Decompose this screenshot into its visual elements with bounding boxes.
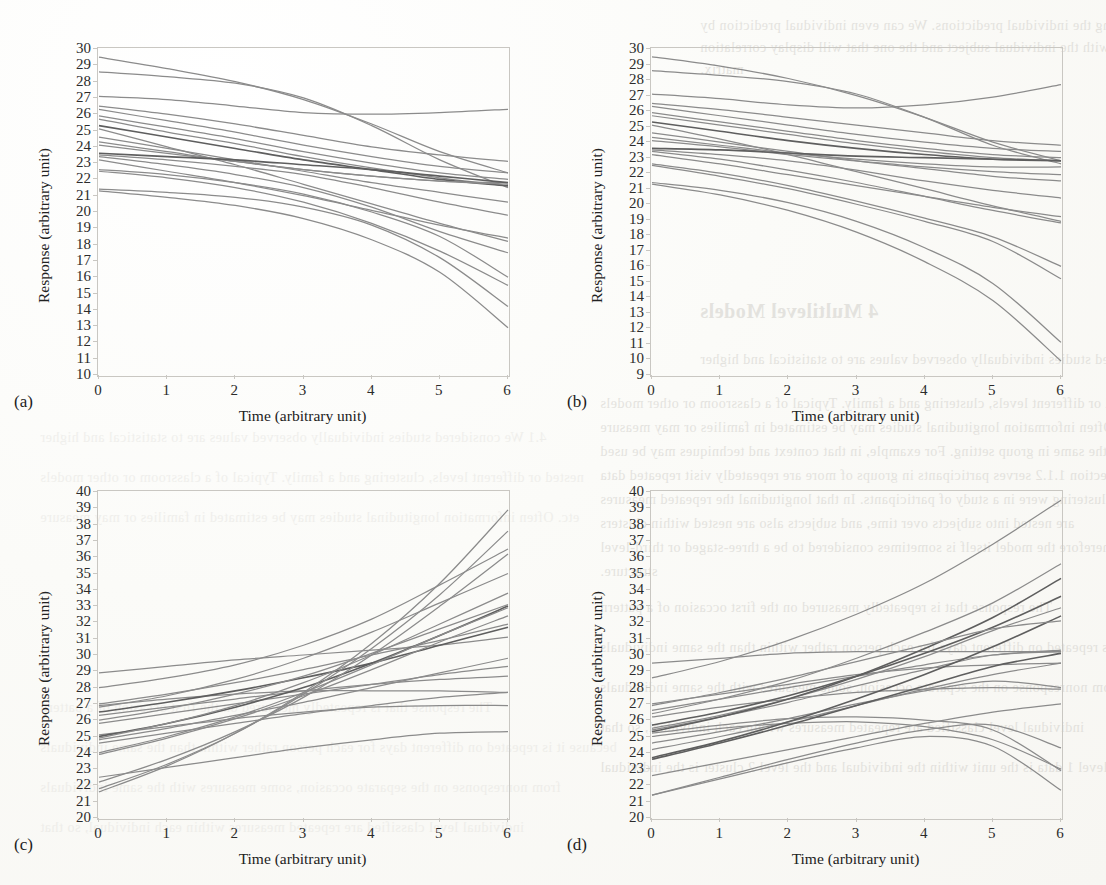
y-axis-tick-label: 23 bbox=[608, 761, 644, 776]
y-axis-tick-mark bbox=[646, 801, 650, 802]
x-axis-tick-label: 5 bbox=[988, 826, 996, 841]
y-axis-tick-label: 36 bbox=[608, 549, 644, 564]
x-axis-tick-mark bbox=[787, 818, 788, 822]
y-axis-tick-mark bbox=[646, 524, 650, 525]
y-axis-tick-label: 30 bbox=[608, 647, 644, 662]
y-axis-tick-label: 24 bbox=[608, 744, 644, 759]
y-axis-tick-mark bbox=[646, 589, 650, 590]
y-axis-tick-mark bbox=[646, 817, 650, 818]
panel-label-d: (d) bbox=[567, 835, 587, 855]
y-axis-tick-label: 21 bbox=[608, 793, 644, 808]
y-axis-tick-mark bbox=[646, 768, 650, 769]
plot-area-d bbox=[650, 490, 1063, 820]
traces-d bbox=[651, 491, 1062, 819]
trace-line bbox=[652, 704, 1061, 776]
y-axis-tick-label: 32 bbox=[608, 614, 644, 629]
x-axis-tick-label: 6 bbox=[1056, 826, 1064, 841]
trace-line bbox=[652, 564, 1061, 714]
y-axis-tick-mark bbox=[646, 719, 650, 720]
y-axis-tick-mark bbox=[646, 491, 650, 492]
x-axis-tick-label: 0 bbox=[647, 826, 655, 841]
y-axis-tick-label: 40 bbox=[608, 484, 644, 499]
y-axis-tick-mark bbox=[646, 540, 650, 541]
y-axis-label: Response (arbitrary unit) bbox=[588, 591, 606, 746]
y-axis-tick-mark bbox=[646, 687, 650, 688]
y-axis-tick-mark bbox=[646, 703, 650, 704]
y-axis-tick-label: 33 bbox=[608, 598, 644, 613]
y-axis-tick-mark bbox=[646, 752, 650, 753]
x-axis-tick-label: 2 bbox=[784, 826, 792, 841]
trace-line bbox=[652, 688, 1061, 717]
panel-d: 2021222324252627282930313233343536373839… bbox=[0, 0, 1106, 885]
trace-line bbox=[652, 663, 1061, 704]
y-axis-tick-mark bbox=[646, 736, 650, 737]
y-axis-tick-label: 29 bbox=[608, 663, 644, 678]
figure-four-panel-spaghetti-plot: 1011121314151617181920212223242526272829… bbox=[0, 0, 1106, 885]
x-axis-tick-label: 3 bbox=[852, 826, 860, 841]
y-axis-tick-mark bbox=[646, 556, 650, 557]
y-axis-tick-label: 37 bbox=[608, 532, 644, 547]
trace-line bbox=[652, 681, 1061, 743]
trace-line bbox=[652, 608, 1061, 729]
y-axis-tick-mark bbox=[646, 670, 650, 671]
y-axis-tick-mark bbox=[646, 507, 650, 508]
x-axis-tick-mark bbox=[856, 818, 857, 822]
y-axis-tick-label: 27 bbox=[608, 695, 644, 710]
trace-line bbox=[652, 724, 1061, 795]
y-axis-tick-mark bbox=[646, 654, 650, 655]
x-axis-tick-label: 1 bbox=[715, 826, 723, 841]
x-axis-tick-mark bbox=[719, 818, 720, 822]
y-axis-tick-label: 31 bbox=[608, 630, 644, 645]
x-axis-tick-mark bbox=[651, 818, 652, 822]
y-axis-tick-mark bbox=[646, 621, 650, 622]
x-axis-tick-label: 4 bbox=[920, 826, 928, 841]
y-axis-tick-label: 38 bbox=[608, 516, 644, 531]
y-axis-tick-label: 34 bbox=[608, 581, 644, 596]
y-axis-tick-mark bbox=[646, 638, 650, 639]
y-axis-tick-label: 28 bbox=[608, 679, 644, 694]
x-axis-tick-mark bbox=[924, 818, 925, 822]
x-axis-tick-mark bbox=[992, 818, 993, 822]
y-axis-tick-label: 35 bbox=[608, 565, 644, 580]
y-axis-tick-label: 20 bbox=[608, 810, 644, 825]
y-axis-tick-mark bbox=[646, 784, 650, 785]
y-axis-tick-mark bbox=[646, 605, 650, 606]
y-axis-tick-mark bbox=[646, 573, 650, 574]
y-axis-tick-label: 22 bbox=[608, 777, 644, 792]
x-axis-tick-mark bbox=[1060, 818, 1061, 822]
y-axis-tick-label: 25 bbox=[608, 728, 644, 743]
x-axis-label: Time (arbitrary unit) bbox=[650, 850, 1061, 868]
y-axis-tick-label: 26 bbox=[608, 712, 644, 727]
y-axis-tick-label: 39 bbox=[608, 500, 644, 515]
